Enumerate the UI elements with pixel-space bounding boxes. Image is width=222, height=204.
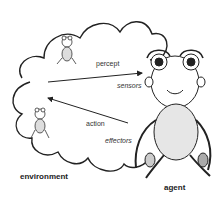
agent-creature [136, 50, 211, 178]
action-label: action [86, 120, 105, 127]
environment-creature-bottom [31, 108, 49, 138]
environment-label: environment [20, 172, 68, 181]
sensors-label: sensors [117, 82, 142, 89]
environment-cloud [13, 22, 167, 171]
percept-label: percept [96, 60, 119, 67]
effectors-label: effectors [105, 137, 132, 144]
environment-creature-top [57, 36, 76, 64]
percept-arrow [48, 73, 142, 82]
agent-label: agent [164, 183, 185, 192]
